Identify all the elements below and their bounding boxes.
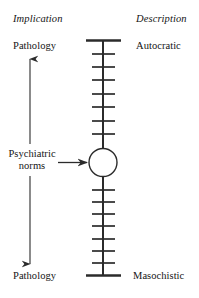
figure-graphics [0, 0, 199, 298]
scale-marker-circle [89, 149, 117, 177]
dimension-scale-figure: Implication Description Pathology Pathol… [0, 0, 199, 298]
